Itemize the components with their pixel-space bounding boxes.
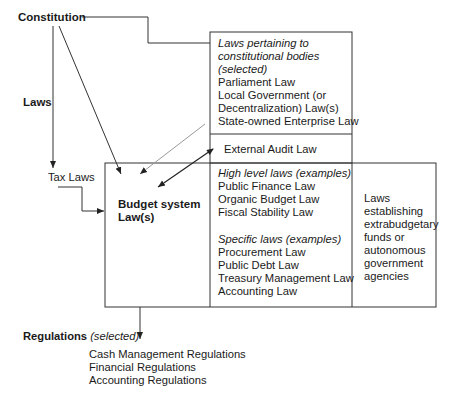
tax-laws-label: Tax Laws <box>48 171 95 183</box>
external-audit-label: External Audit Law <box>224 143 317 155</box>
specific-laws: Specific laws (examples) Procurement Law… <box>218 233 354 298</box>
constitutional-bodies-text: Laws pertaining to constitutional bodies… <box>218 37 359 128</box>
regulations-list: Cash Management Regulations Financial Re… <box>89 348 246 387</box>
laws-label: Laws <box>23 96 52 108</box>
extrabudgetary-text: Laws establishing extrabudgetary funds o… <box>364 192 439 283</box>
regulations-label: Regulations (selected) <box>23 330 139 343</box>
constitution-label: Constitution <box>18 11 86 23</box>
budget-system-label: Budget system Law(s) <box>118 198 200 224</box>
high-level-laws: High level laws (examples) Public Financ… <box>218 167 351 219</box>
